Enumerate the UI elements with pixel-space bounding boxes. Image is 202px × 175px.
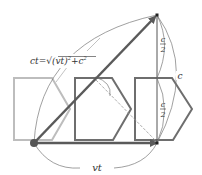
label-leader-line (56, 66, 68, 82)
half-c-bottom-num: c (161, 100, 166, 109)
apex-dot (156, 14, 159, 17)
label-sup2: 2 (82, 55, 86, 61)
height-c-label: c (177, 71, 182, 81)
label-eq: = (39, 56, 47, 66)
light-clock-diagram: ct=√(vt)2+c2 c 2 c 2 c vt (0, 0, 202, 175)
half-c-bottom-den: 2 (159, 110, 165, 119)
faded-clock-pentagon (14, 78, 70, 140)
label-plus: +c (71, 56, 84, 66)
vt-arc (34, 143, 80, 168)
half-c-top-den: 2 (159, 45, 165, 54)
vt-label: vt (92, 162, 103, 173)
label-ct: ct (30, 56, 39, 66)
vt-arc-right (114, 143, 157, 168)
diagram-canvas: ct=√(vt)2+c2 c 2 c 2 c vt (0, 0, 202, 175)
label-leader-line-top (87, 38, 100, 51)
base-dot (156, 142, 159, 145)
dashed-line (96, 80, 157, 142)
origin-dot (30, 139, 38, 147)
label-inner: (vt) (52, 56, 68, 66)
half-c-top-num: c (161, 35, 166, 44)
